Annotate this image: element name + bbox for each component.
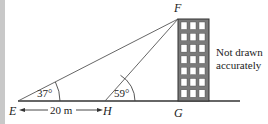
window [199,22,205,30]
note-line-1: Not drawn [216,46,263,58]
window [190,56,196,64]
window [181,67,187,75]
window [190,67,196,75]
window [181,22,187,30]
window [181,56,187,64]
point-label-F: F [173,1,182,15]
window [181,90,187,98]
window [199,79,205,87]
window [199,67,205,75]
point-label-E: E [8,104,17,118]
window [199,56,205,64]
trig-diagram: 37° 59° 20 m E H G F Not drawn accuratel… [0,0,268,124]
window [199,33,205,41]
window [181,79,187,87]
angle-label-H: 59° [114,87,129,99]
distance-label: 20 m [50,104,73,116]
building [178,19,209,101]
window [190,79,196,87]
arrowhead-left-icon [19,108,25,112]
window [199,90,205,98]
building-windows [181,22,205,97]
point-label-H: H [102,104,113,118]
window [190,45,196,53]
window [181,33,187,41]
angle-arc-E [55,82,60,101]
window [181,45,187,53]
angle-label-E: 37° [37,87,52,99]
window [190,33,196,41]
window [190,90,196,98]
window [190,22,196,30]
point-label-G: G [174,106,183,120]
note-line-2: accurately [216,59,262,71]
window [199,45,205,53]
